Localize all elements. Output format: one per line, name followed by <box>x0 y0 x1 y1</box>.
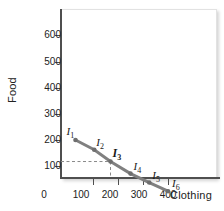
x-tick-200 <box>118 179 119 185</box>
point-label-I5: I5 <box>152 169 160 184</box>
y-tick-label-600-wrap: 600 <box>0 30 61 40</box>
x-tick-label-300: 300 <box>124 190 154 200</box>
x-axis-line <box>60 177 220 179</box>
y-tick-label-300: 300 <box>27 109 61 119</box>
y-axis-title: Food <box>6 60 18 120</box>
y-tick-label-400: 400 <box>27 83 61 93</box>
y-tick-label-200-wrap: 200 <box>0 135 61 145</box>
point-label-I2: I2 <box>96 136 104 151</box>
point-label-I3: I3 <box>113 146 122 162</box>
x-tick-100 <box>93 179 94 185</box>
chart-figure: 600 500 400 300 200 100 0 100 200 300 40… <box>0 0 224 211</box>
point-label-I6: I6 <box>172 177 180 192</box>
point-label-I1: I1 <box>67 125 75 140</box>
point-label-I4: I4 <box>134 160 142 175</box>
y-tick-label-600: 600 <box>27 30 61 40</box>
data-point-5 <box>147 180 152 185</box>
y-tick-label-100-wrap: 100 <box>0 161 61 171</box>
y-tick-label-500: 500 <box>27 57 61 67</box>
plot-area <box>61 9 217 179</box>
x-tick-label-0: 0 <box>29 190 59 200</box>
x-tick-label-200: 200 <box>95 190 125 200</box>
x-tick-300 <box>143 179 144 185</box>
y-tick-label-200: 200 <box>27 135 61 145</box>
y-tick-label-100: 100 <box>27 161 61 171</box>
x-tick-label-100: 100 <box>66 190 96 200</box>
x-tick-400 <box>168 179 169 185</box>
